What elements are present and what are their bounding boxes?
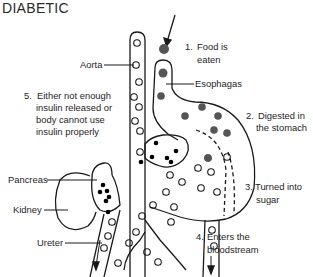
step-text: sugar (256, 194, 279, 205)
food-particle-icon (159, 44, 169, 54)
pancreas-label: Pancreas (8, 174, 48, 185)
aorta-shape (130, 32, 145, 277)
esophagas-label: Esophagas (195, 78, 242, 89)
step-text: eaten (197, 54, 220, 65)
ureter-label: Ureter (37, 237, 63, 248)
step-number: 5. (24, 90, 32, 101)
kidney-shape (55, 173, 96, 230)
step-number: 3. (245, 181, 253, 192)
step-text: Either not enough (37, 90, 111, 101)
step-text: Enters the (207, 231, 250, 242)
digestive-system-illustration (0, 0, 313, 277)
step-text: Digested in (258, 110, 305, 121)
step-text: insulin properly (36, 126, 99, 137)
step-number: 4. (196, 231, 204, 242)
step-text: insulin released or (36, 102, 112, 113)
pancreas-shape (92, 135, 189, 214)
step-text: the stomach (256, 122, 307, 133)
kidney-label: Kidney (13, 204, 42, 215)
step-text: Turned into (255, 181, 302, 192)
aorta-label: Aorta (80, 59, 102, 70)
step-text: bloodstream (207, 244, 259, 255)
step-text: body cannot use (36, 114, 105, 125)
food-arrow-icon (164, 15, 175, 46)
step-number: 2. (246, 110, 254, 121)
step-number: 1. (185, 41, 193, 52)
step-text: Food is (197, 41, 228, 52)
